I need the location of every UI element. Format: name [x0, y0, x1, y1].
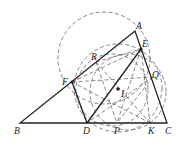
label-k: K [147, 126, 155, 136]
label-b: B [14, 126, 20, 136]
label-q: Q [152, 70, 159, 80]
circle-small [90, 54, 166, 130]
point-i [116, 87, 120, 91]
label-a: A [135, 21, 142, 31]
dash-r-p [96, 62, 117, 123]
label-c: C [165, 126, 172, 136]
label-p: P [113, 126, 120, 136]
dash-f-q [72, 77, 153, 82]
geometry-diagram: A B C D E F P K Q R I [0, 0, 184, 153]
label-d: D [82, 126, 90, 136]
label-r: R [90, 52, 97, 62]
dash-e-p [117, 49, 141, 123]
label-f: F [61, 77, 68, 87]
segment-d-f [72, 82, 87, 123]
point-f [70, 80, 73, 83]
dash-q-d [87, 77, 153, 123]
label-e: E [141, 39, 148, 49]
